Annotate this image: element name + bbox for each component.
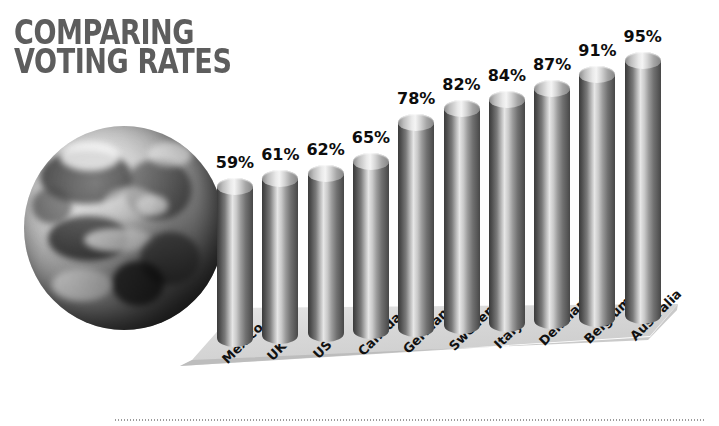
bar-uk[interactable] <box>262 170 298 344</box>
bar-body <box>534 88 570 329</box>
bar-value-label: 91% <box>578 41 616 60</box>
bar-belgium[interactable] <box>579 66 615 326</box>
bar-us[interactable] <box>308 165 344 342</box>
bar-body <box>262 178 298 344</box>
bar-value-label: 61% <box>261 145 299 164</box>
bar-italy[interactable] <box>489 91 525 331</box>
bar-body <box>444 108 480 335</box>
bar-value-label: 84% <box>488 66 526 85</box>
bar-value-label: 62% <box>306 140 344 159</box>
bar-value-label: 95% <box>624 27 662 46</box>
bar-germany[interactable] <box>398 114 434 337</box>
dotted-divider <box>114 419 706 421</box>
bar-australia[interactable] <box>625 52 661 324</box>
bar-body <box>625 60 661 324</box>
bar-body <box>217 186 253 347</box>
bar-value-label: 65% <box>352 128 390 147</box>
bar-value-label: 78% <box>397 89 435 108</box>
title-line-2: VOTING RATES <box>14 47 203 76</box>
bar-value-label: 82% <box>442 75 480 94</box>
bar-body <box>579 74 615 326</box>
infographic-canvas: COMPARING VOTING RATES 59%Mexico61%UK62%… <box>0 0 719 426</box>
bar-body <box>308 173 344 342</box>
bar-value-label: 87% <box>533 55 571 74</box>
bar-top-ellipse <box>444 100 480 117</box>
bar-body <box>489 99 525 331</box>
bar-value-label: 59% <box>216 153 254 172</box>
bar-denmark[interactable] <box>534 80 570 329</box>
bar-body <box>398 122 434 337</box>
bar-sweden[interactable] <box>444 100 480 335</box>
bar-top-ellipse <box>262 170 298 187</box>
bar-body <box>353 161 389 339</box>
bar-mexico[interactable] <box>217 178 253 347</box>
bar-top-ellipse <box>308 165 344 182</box>
bar-canada[interactable] <box>353 153 389 339</box>
page-title: COMPARING VOTING RATES <box>14 18 203 76</box>
bar-top-ellipse <box>398 114 434 131</box>
